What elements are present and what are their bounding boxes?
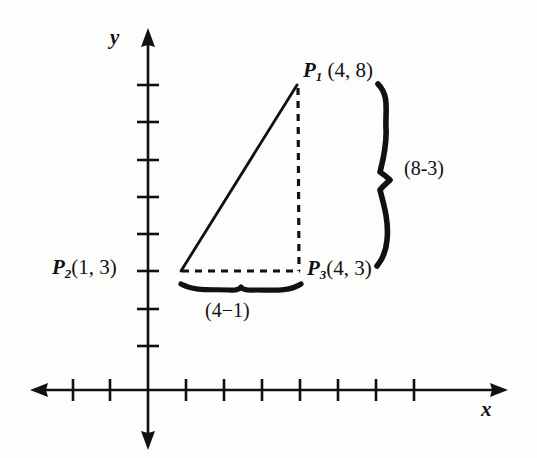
vertical-brace <box>377 84 390 266</box>
label-p3-coords: (4, 3) <box>326 256 372 280</box>
triangle-hypotenuse <box>181 85 297 271</box>
label-p1-coords: (4, 8) <box>322 58 373 82</box>
triangle-vertical-leg <box>298 88 299 271</box>
vertical-brace-path <box>377 84 390 266</box>
label-p2-name: P <box>52 255 65 279</box>
horizontal-brace-path <box>181 284 301 290</box>
label-p2-coords: (1, 3) <box>71 255 117 279</box>
right-triangle <box>181 85 300 271</box>
distance-formula-figure: P1 (4, 8) P2(1, 3) P3(4, 3) (8-3) (4−1) … <box>0 0 537 458</box>
x-axis-left-arrowhead <box>30 383 48 397</box>
x-axis <box>30 379 508 401</box>
label-p1-name: P <box>303 58 316 82</box>
label-vertical-leg-length: (8-3) <box>404 158 444 178</box>
label-horizontal-leg-length: (4−1) <box>205 300 250 320</box>
label-p3-name: P <box>307 256 320 280</box>
y-axis <box>137 28 159 450</box>
x-axis-right-arrowhead <box>490 383 508 397</box>
y-axis-up-arrowhead <box>141 28 155 47</box>
horizontal-brace <box>181 284 301 290</box>
y-axis-down-arrowhead <box>141 431 155 450</box>
x-axis-label: x <box>481 399 492 420</box>
label-p1: P1 (4, 8) <box>303 60 373 81</box>
label-p3: P3(4, 3) <box>307 258 372 279</box>
y-axis-label: y <box>110 27 119 48</box>
label-p2: P2(1, 3) <box>52 257 117 278</box>
coordinate-plane-svg <box>0 0 537 458</box>
